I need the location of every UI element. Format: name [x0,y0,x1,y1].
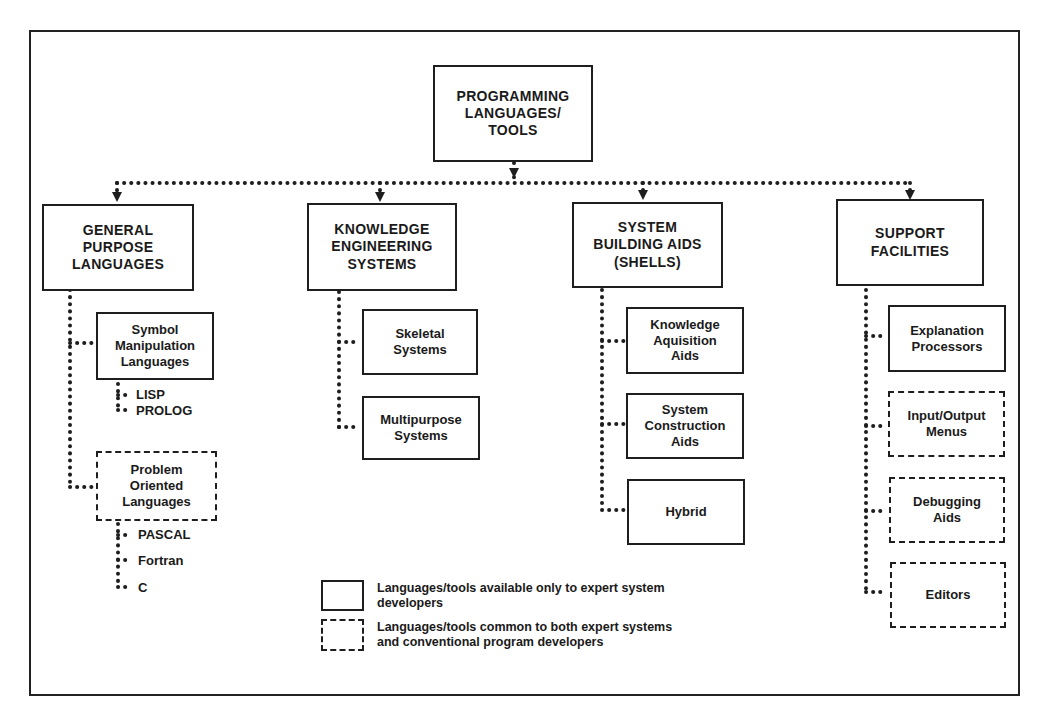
category-system-building-aids: SYSTEM BUILDING AIDS (SHELLS) [572,202,723,288]
category-support-facilities: SUPPORT FACILITIES [836,199,984,286]
node-symbol-manipulation-languages: Symbol Manipulation Languages [96,312,214,380]
node-editors: Editors [890,562,1006,628]
example-c: C [138,580,147,596]
node-system-construction-aids: System Construction Aids [626,393,744,459]
legend-dashed-text: Languages/tools common to both expert sy… [377,620,672,650]
node-knowledge-aquisition-aids: Knowledge Aquisition Aids [626,307,744,374]
example-pascal: PASCAL [138,527,190,543]
example-lisp: LISP [136,387,165,403]
node-debugging-aids: Debugging Aids [889,477,1005,543]
node-explanation-processors: Explanation Processors [888,305,1006,372]
category-knowledge-engineering-systems: KNOWLEDGE ENGINEERING SYSTEMS [307,203,457,291]
legend-solid-text: Languages/tools available only to expert… [377,581,665,611]
category-general-purpose-languages: GENERAL PURPOSE LANGUAGES [42,204,194,291]
node-input-output-menus: Input/Output Menus [888,391,1005,457]
legend-dashed-swatch [321,619,364,651]
node-multipurpose-systems: Multipurpose Systems [362,396,480,460]
legend-solid-swatch [321,580,364,611]
root-node-programming-languages-tools: PROGRAMMING LANGUAGES/ TOOLS [433,65,593,162]
node-skeletal-systems: Skeletal Systems [362,309,478,375]
example-fortran: Fortran [138,553,184,569]
node-problem-oriented-languages: Problem Oriented Languages [96,451,217,521]
node-hybrid: Hybrid [627,479,745,545]
example-prolog: PROLOG [136,403,192,419]
